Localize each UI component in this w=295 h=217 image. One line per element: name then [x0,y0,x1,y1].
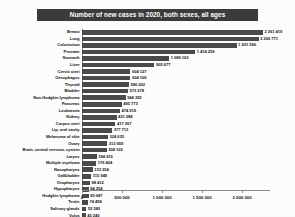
x-axis-tick [162,190,163,193]
bar-value-label: 905 677 [156,63,170,67]
bar [82,76,130,81]
bar-value-label: 98 412 [91,181,103,185]
bar [82,63,154,68]
bar [82,43,237,48]
x-axis-tick-label: 2 000 000 [232,196,251,200]
bar-value-label: 544 352 [127,96,141,100]
bar [82,69,130,74]
bar-value-label: 53 583 [88,207,100,211]
x-axis-tick [122,190,123,193]
bar-value-label: 184 615 [98,155,112,159]
x-axis-tick [242,190,243,193]
bar-value-label: 133 354 [94,168,108,172]
bar [82,128,112,133]
category-label: Vulva [69,212,80,217]
bar [82,207,86,212]
bar [82,122,115,127]
bar [82,82,129,87]
bar-value-label: 586 202 [130,83,144,87]
bar [82,154,97,159]
bar-value-label: 2 206 771 [260,37,278,41]
bar-value-label: 377 713 [114,128,128,132]
x-axis-tick-label: 1 000 000 [152,196,171,200]
bar [82,213,86,217]
chart-title-banner: Number of new cases in 2020, both sexes,… [37,9,258,21]
bar-value-label: 45 240 [87,214,99,217]
bar-value-label: 1 931 590 [238,43,256,47]
bar [82,174,91,179]
bar [82,109,120,114]
bar-value-label: 176 404 [98,161,112,165]
x-axis-tick-label: 500 000 [114,196,130,200]
bar-value-label: 431 288 [118,115,132,119]
plot-area: Breast2 261 419Lung2 206 771Colorectum1 … [82,29,270,190]
x-axis-tick-label: 0 [81,196,83,200]
bar [82,102,122,107]
bar [82,95,126,100]
bar-value-label: 115 949 [93,174,107,178]
bar-chart: Number of new cases in 2020, both sexes,… [0,0,295,217]
bar-value-label: 495 773 [123,102,137,106]
bar [82,50,195,55]
x-axis-tick-label: 1 500 000 [192,196,211,200]
bar [82,200,88,205]
bar-value-label: 324 635 [110,135,124,139]
bar-value-label: 1 089 103 [171,56,189,60]
x-axis-tick [82,190,83,193]
bar-value-label: 417 367 [117,122,131,126]
bar [82,56,169,61]
bar [82,37,259,42]
bar-series: Breast2 261 419Lung2 206 771Colorectum1 … [82,29,270,190]
bar [82,181,90,186]
bar-value-label: 83 087 [90,194,102,198]
bar [82,115,117,120]
bar-value-label: 474 519 [122,109,136,113]
bar-value-label: 573 278 [129,89,143,93]
bar-value-label: 308 102 [108,148,122,152]
bar-value-label: 74 458 [90,200,102,204]
bar [82,141,107,146]
bar [82,167,93,172]
x-axis-tick [202,190,203,193]
bar-value-label: 2 261 419 [265,30,283,34]
bar [82,161,96,166]
bar [82,89,128,94]
bar-value-label: 1 414 259 [197,50,215,54]
bar-value-label: 604 127 [132,70,146,74]
bar [82,135,108,140]
bar-value-label: 604 100 [132,76,146,80]
bar-value-label: 313 959 [109,142,123,146]
bar [82,30,263,35]
bar-row: Vulva45 240 [82,212,270,217]
bar [82,148,107,153]
chart-title: Number of new cases in 2020, both sexes,… [70,12,226,18]
